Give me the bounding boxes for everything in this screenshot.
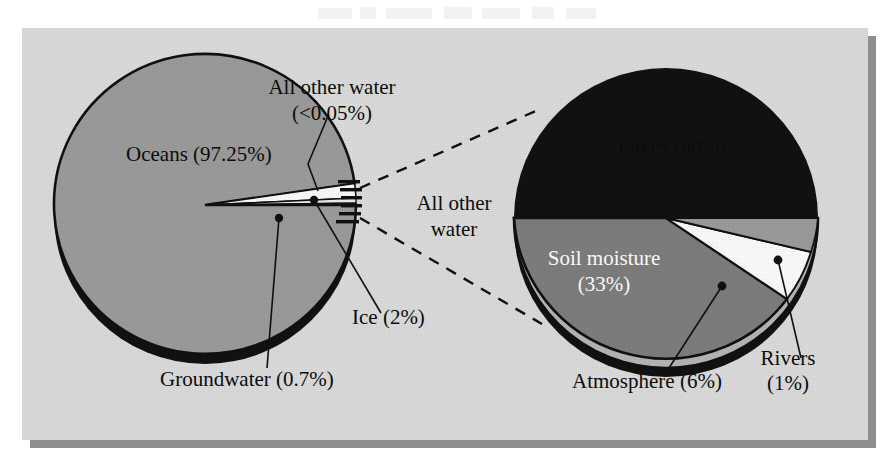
label-soil-moisture-line1: Soil moisture (548, 246, 661, 270)
label-oceans: Oceans (97.25%) (126, 142, 272, 166)
label-all-other-water-pct-line2: (<0.05%) (292, 101, 372, 125)
label-atmosphere: Atmosphere (6%) (572, 369, 722, 393)
figure-root: Oceans (97.25%) All other water (<0.05%)… (0, 0, 884, 462)
label-rivers-line2: (1%) (767, 371, 809, 395)
label-all-other-water-line1: All other (416, 191, 491, 215)
chart-panel: Oceans (97.25%) All other water (<0.05%)… (22, 28, 868, 440)
label-all-other-water-pct-line1: All other water (268, 75, 395, 99)
label-ice: Ice (2%) (352, 305, 425, 329)
label-rivers-line1: Rivers (761, 346, 816, 370)
label-all-other-water-line2: water (431, 217, 478, 241)
label-lakes: Lakes (60%) (618, 134, 726, 158)
scan-artifact-strip (0, 0, 884, 26)
label-groundwater: Groundwater (0.7%) (160, 367, 334, 391)
label-soil-moisture-line2: (33%) (578, 272, 630, 296)
water-distribution-figure: Oceans (97.25%) All other water (<0.05%)… (22, 28, 868, 440)
